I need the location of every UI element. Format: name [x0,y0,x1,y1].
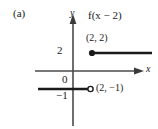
point-label-closed: (2, 2) [86,33,108,43]
y-axis-label: y [70,8,74,18]
y-tick-label-2: 2 [57,45,63,56]
x-axis [35,68,144,75]
coordinate-plane-svg [0,0,158,129]
x-axis-label: x [146,64,150,74]
graph-figure: (a) y x f(x − 2) 2 0 −1 (2, 2) (2, −1) [0,0,158,129]
y-tick-label-neg-1: −1 [56,90,68,101]
function-label: f(x − 2) [88,10,122,21]
open-endpoint-marker [88,86,93,91]
origin-tick-label: 0 [62,74,68,85]
y-axis [70,14,77,126]
closed-endpoint-marker [89,50,95,56]
graph-ray-upper [89,50,152,56]
point-label-open: (2, −1) [96,83,123,93]
panel-label: (a) [13,8,25,19]
